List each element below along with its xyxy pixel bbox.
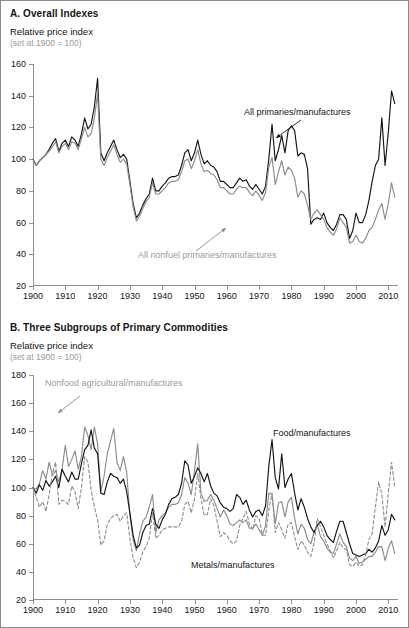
x-tick-mark bbox=[195, 286, 196, 290]
annotation-arrow bbox=[196, 228, 226, 251]
x-tick-label: 2010 bbox=[378, 605, 398, 615]
x-tick-label: 1980 bbox=[281, 605, 301, 615]
figure-container: A. Overall Indexes Relative price index … bbox=[0, 0, 409, 628]
y-tick-label: 60 bbox=[16, 539, 26, 549]
x-tick-mark bbox=[130, 286, 131, 290]
x-tick-label: 1910 bbox=[55, 291, 75, 301]
panel-a-axis-subcaption: (set at 1900 = 100) bbox=[10, 38, 82, 48]
x-tick-mark bbox=[227, 286, 228, 290]
panel-b-annotation-arrows bbox=[33, 375, 398, 600]
x-tick-mark bbox=[162, 600, 163, 604]
panel-b: B. Three Subgroups of Primary Commoditie… bbox=[1, 315, 409, 628]
panel-a-annotation-arrows bbox=[33, 64, 398, 286]
annotation-arrow bbox=[276, 120, 301, 138]
panel-b-axis-subcaption: (set at 1900 = 100) bbox=[10, 352, 82, 362]
x-tick-label: 1920 bbox=[88, 605, 108, 615]
x-tick-mark bbox=[33, 286, 34, 290]
x-tick-mark bbox=[227, 600, 228, 604]
x-tick-label: 1930 bbox=[120, 291, 140, 301]
x-tick-mark bbox=[259, 600, 260, 604]
y-tick-label: 20 bbox=[16, 281, 26, 291]
x-tick-label: 1930 bbox=[120, 605, 140, 615]
x-tick-mark bbox=[388, 600, 389, 604]
panel-b-axis-caption: Relative price index bbox=[10, 340, 93, 351]
x-tick-label: 1970 bbox=[249, 605, 269, 615]
y-tick-label: 40 bbox=[16, 249, 26, 259]
x-tick-mark bbox=[356, 286, 357, 290]
x-tick-label: 1900 bbox=[23, 605, 43, 615]
y-tick-label: 120 bbox=[11, 454, 26, 464]
x-tick-mark bbox=[65, 600, 66, 604]
x-tick-mark bbox=[291, 286, 292, 290]
x-tick-mark bbox=[65, 286, 66, 290]
x-tick-label: 1990 bbox=[314, 291, 334, 301]
x-tick-mark bbox=[98, 600, 99, 604]
x-tick-label: 1900 bbox=[23, 291, 43, 301]
annotation-arrow bbox=[58, 396, 80, 413]
x-tick-mark bbox=[33, 600, 34, 604]
x-tick-mark bbox=[324, 286, 325, 290]
x-tick-label: 2010 bbox=[378, 291, 398, 301]
x-tick-label: 1960 bbox=[217, 291, 237, 301]
x-tick-label: 1990 bbox=[314, 605, 334, 615]
x-tick-mark bbox=[98, 286, 99, 290]
x-tick-label: 1960 bbox=[217, 605, 237, 615]
x-tick-mark bbox=[356, 600, 357, 604]
x-tick-label: 1910 bbox=[55, 605, 75, 615]
y-tick-label: 180 bbox=[11, 370, 26, 380]
y-tick-label: 100 bbox=[11, 483, 26, 493]
x-tick-label: 1940 bbox=[152, 291, 172, 301]
panel-a-title: A. Overall Indexes bbox=[10, 8, 99, 19]
x-tick-label: 1970 bbox=[249, 291, 269, 301]
y-tick-label: 60 bbox=[16, 218, 26, 228]
x-tick-label: 1980 bbox=[281, 291, 301, 301]
y-tick-label: 100 bbox=[11, 154, 26, 164]
y-tick-label: 140 bbox=[11, 91, 26, 101]
x-tick-label: 1950 bbox=[184, 605, 204, 615]
x-tick-mark bbox=[324, 600, 325, 604]
x-tick-mark bbox=[291, 600, 292, 604]
y-tick-label: 80 bbox=[16, 186, 26, 196]
x-tick-mark bbox=[195, 600, 196, 604]
y-tick-label: 160 bbox=[11, 59, 26, 69]
x-tick-label: 2000 bbox=[346, 291, 366, 301]
panel-b-plot-area: 20406080100120140160180 1900191019201930… bbox=[33, 375, 398, 600]
x-tick-mark bbox=[259, 286, 260, 290]
y-tick-label: 80 bbox=[16, 511, 26, 521]
y-tick-label: 40 bbox=[16, 567, 26, 577]
y-tick-label: 20 bbox=[16, 595, 26, 605]
panel-a-plot-area: 20406080100120140160 1900191019201930194… bbox=[33, 64, 398, 286]
y-tick-label: 120 bbox=[11, 122, 26, 132]
x-tick-label: 2000 bbox=[346, 605, 366, 615]
x-tick-mark bbox=[130, 600, 131, 604]
x-tick-label: 1920 bbox=[88, 291, 108, 301]
x-tick-mark bbox=[388, 286, 389, 290]
x-tick-mark bbox=[162, 286, 163, 290]
panel-a-axis-caption: Relative price index bbox=[10, 26, 93, 37]
panel-b-title: B. Three Subgroups of Primary Commoditie… bbox=[10, 322, 228, 333]
y-tick-label: 160 bbox=[11, 398, 26, 408]
y-tick-label: 140 bbox=[11, 426, 26, 436]
panel-a: A. Overall Indexes Relative price index … bbox=[1, 1, 409, 315]
x-tick-label: 1940 bbox=[152, 605, 172, 615]
x-tick-label: 1950 bbox=[184, 291, 204, 301]
